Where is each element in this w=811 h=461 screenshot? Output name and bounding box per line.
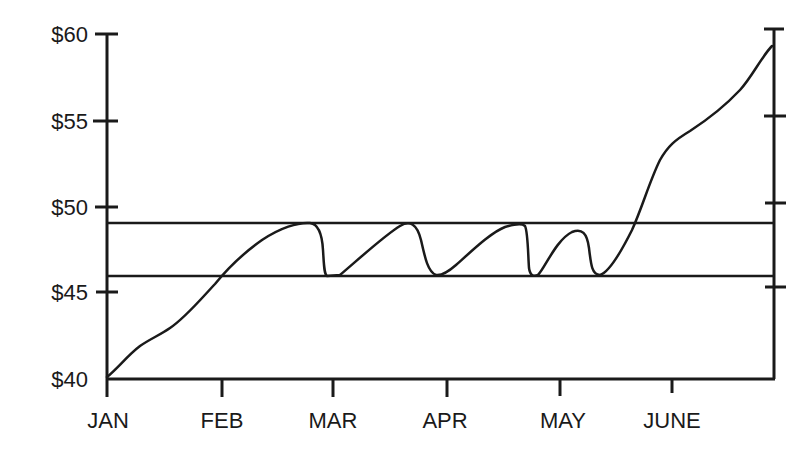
y-tick-label-45: $45 [51, 280, 88, 305]
price-line [107, 46, 772, 377]
x-tick-label-mar: MAR [309, 408, 358, 433]
y-tick-labels: $60 $55 $50 $45 $40 [51, 22, 88, 392]
x-tick-label-may: MAY [540, 408, 586, 433]
y-tick-label-40: $40 [51, 367, 88, 392]
x-ticks [222, 379, 672, 397]
y-tick-label-60: $60 [51, 22, 88, 47]
x-tick-label-apr: APR [422, 408, 467, 433]
x-tick-label-jan: JAN [87, 408, 129, 433]
x-tick-label-feb: FEB [201, 408, 244, 433]
x-tick-label-june: JUNE [643, 408, 700, 433]
y-tick-label-55: $55 [51, 109, 88, 134]
y-tick-label-50: $50 [51, 195, 88, 220]
x-tick-labels: JAN FEB MAR APR MAY JUNE [87, 408, 701, 433]
line-chart: $60 $55 $50 $45 $40 JAN FEB MAR APR MAY … [0, 0, 811, 461]
